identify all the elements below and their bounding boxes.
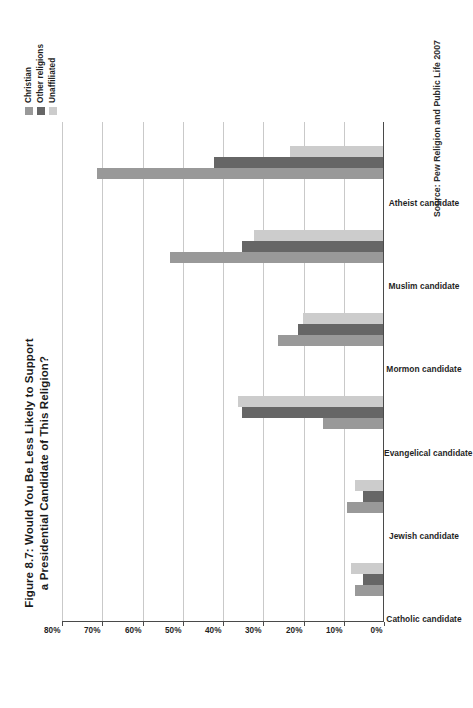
- bar: [242, 241, 383, 252]
- category-label: Mormon candidate: [384, 364, 464, 374]
- bar: [323, 418, 383, 429]
- bar: [242, 407, 383, 418]
- axis-tick-mark: [344, 622, 345, 626]
- bar: [97, 168, 383, 179]
- bar: [355, 480, 383, 491]
- legend-item: Other religions: [36, 44, 45, 115]
- figure-title-line-1: Figure 8.7: Would You Be Less Likely to …: [23, 338, 35, 607]
- bar: [351, 563, 383, 574]
- y-axis-tick-label: 10%: [316, 626, 342, 635]
- bar: [303, 313, 384, 324]
- bar-group: [62, 204, 383, 287]
- legend-label: Christian: [24, 67, 33, 103]
- chart-legend: ChristianOther religionsUnaffiliated: [24, 44, 57, 115]
- bar: [278, 335, 383, 346]
- legend-item: Christian: [24, 44, 33, 115]
- bar: [254, 230, 383, 241]
- y-axis-tick-label: 40%: [196, 626, 222, 635]
- bar: [170, 252, 383, 263]
- bar-group: [62, 371, 383, 454]
- category-label: Muslim candidate: [384, 281, 464, 291]
- plot-area: [62, 122, 384, 622]
- axis-tick-mark: [102, 622, 103, 626]
- category-label: Jewish candidate: [384, 531, 464, 541]
- bar: [347, 502, 383, 513]
- bar-group: [62, 288, 383, 371]
- bar-group: [62, 121, 383, 204]
- bar-group: [62, 454, 383, 537]
- bar: [355, 585, 383, 596]
- legend-label: Unaffiliated: [48, 58, 57, 103]
- legend-label: Other religions: [36, 44, 45, 103]
- axis-tick-mark: [183, 622, 184, 626]
- bar-groups: [62, 122, 383, 621]
- legend-swatch-icon: [25, 107, 33, 115]
- bar: [290, 146, 383, 157]
- y-axis-tick-label: 30%: [236, 626, 262, 635]
- legend-swatch-icon: [49, 107, 57, 115]
- y-axis-tick-label: 70%: [75, 626, 101, 635]
- y-axis-tick-label: 80%: [35, 626, 61, 635]
- bar: [238, 396, 383, 407]
- figure-stage: Figure 8.7: Would You Be Less Likely to …: [16, 30, 446, 678]
- category-label: Evangelical candidate: [384, 448, 464, 458]
- y-axis-tick-label: 0%: [357, 626, 383, 635]
- bar: [298, 324, 383, 335]
- y-axis-tick-label: 60%: [115, 626, 141, 635]
- category-label: Catholic candidate: [384, 614, 464, 624]
- y-axis-tick-label: 20%: [276, 626, 302, 635]
- bar-group: [62, 538, 383, 621]
- axis-tick-mark: [304, 622, 305, 626]
- bar: [363, 491, 383, 502]
- figure-title-line-2: a Presidential Candidate of This Religio…: [37, 268, 52, 678]
- axis-tick-mark: [223, 622, 224, 626]
- axis-tick-mark: [62, 622, 63, 626]
- bar: [214, 157, 383, 168]
- legend-item: Unaffiliated: [48, 44, 57, 115]
- legend-swatch-icon: [37, 107, 45, 115]
- source-note: Source: Pew Religion and Public Life 200…: [432, 40, 442, 217]
- bar: [363, 574, 383, 585]
- y-axis-tick-label: 50%: [155, 626, 181, 635]
- axis-tick-mark: [263, 622, 264, 626]
- category-label: Atheist candidate: [384, 198, 464, 208]
- axis-tick-mark: [143, 622, 144, 626]
- figure-title: Figure 8.7: Would You Be Less Likely to …: [22, 268, 52, 678]
